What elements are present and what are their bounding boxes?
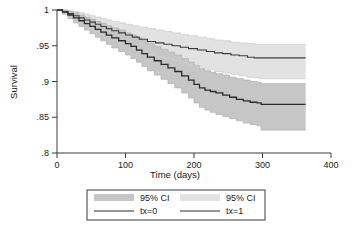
legend-label-ci-tx1: 95% CI [226, 193, 256, 203]
y-tick-label-0: .8 [41, 148, 49, 158]
y-axis-ticks: .8.85.9.951 [36, 5, 57, 158]
y-tick-label-4: 1 [44, 5, 49, 15]
x-tick-label-4: 400 [323, 160, 338, 170]
x-tick-label-1: 100 [118, 160, 133, 170]
legend-swatch-ci-tx0 [94, 194, 134, 201]
x-axis-ticks: 0100200300400 [54, 153, 338, 170]
y-tick-label-1: .85 [36, 112, 49, 122]
x-tick-label-3: 300 [255, 160, 270, 170]
legend-label-ci-tx0: 95% CI [140, 193, 170, 203]
survival-chart-figure: .8.85.9.951 0100200300400 Time (days) Su… [0, 0, 352, 226]
legend-label-tx0: tx=0 [140, 206, 157, 216]
y-tick-label-3: .95 [36, 41, 49, 51]
chart-svg: .8.85.9.951 0100200300400 Time (days) Su… [0, 0, 352, 226]
x-axis-title: Time (days) [150, 169, 200, 180]
x-tick-label-0: 0 [54, 160, 59, 170]
y-axis-title: Survival [8, 65, 19, 99]
legend-label-tx1: tx=1 [226, 206, 243, 216]
chart-legend: 95% CI 95% CI tx=0 tx=1 [87, 190, 265, 220]
legend-swatch-ci-tx1 [180, 194, 220, 201]
y-tick-label-2: .9 [41, 77, 49, 87]
